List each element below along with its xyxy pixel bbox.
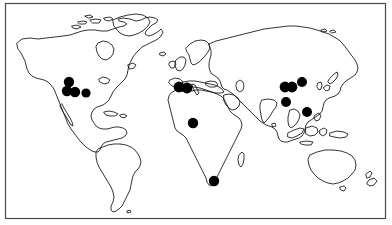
map-frame — [0, 0, 392, 225]
map-background — [0, 0, 392, 225]
locality-marker-central-asia-east — [287, 82, 298, 93]
locality-marker-north-america-northwest — [64, 77, 74, 87]
locality-marker-north-america-south-central — [70, 87, 80, 97]
locality-marker-south-central-asia — [281, 97, 291, 107]
locality-marker-southern-africa — [209, 176, 219, 186]
locality-marker-north-africa-northeast — [182, 83, 193, 94]
locality-marker-east-asia-southeast — [302, 107, 312, 117]
map-svg — [0, 0, 392, 225]
world-map-figure: World map with filled circular locality … — [0, 0, 392, 225]
locality-marker-north-america-central — [81, 88, 90, 97]
locality-marker-northeast-asia — [297, 77, 307, 87]
locality-marker-west-africa — [188, 118, 198, 128]
